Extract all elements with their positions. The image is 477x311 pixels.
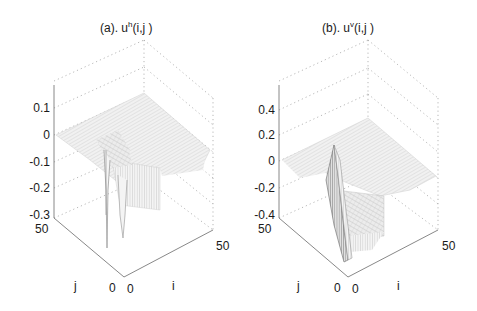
panel-a-ytick-0: 0 <box>109 281 116 295</box>
panel-b-xtick-50: 50 <box>442 239 456 253</box>
figure-canvas: (a). uh(i,j ) <box>0 0 477 311</box>
panel-b-ylabel: j <box>296 279 300 293</box>
panel-a: (a). uh(i,j ) <box>29 20 229 296</box>
svg-text:-0.4: -0.4 <box>254 208 275 222</box>
panel-b-title: (b). uv(i,j ) <box>322 20 374 35</box>
svg-text:0.1: 0.1 <box>33 101 50 115</box>
svg-text:0: 0 <box>43 128 50 142</box>
panel-b-zticks: 0.4 0.2 0 -0.2 -0.4 <box>254 103 275 222</box>
panel-b: (b). uv(i,j ) <box>254 20 455 296</box>
svg-text:0: 0 <box>268 154 275 168</box>
panel-a-xlabel: i <box>172 279 175 293</box>
panel-a-ytick-50: 50 <box>35 222 49 236</box>
svg-text:-0.2: -0.2 <box>29 181 50 195</box>
panel-b-ytick-0: 0 <box>334 281 341 295</box>
panel-a-ylabel: j <box>73 279 77 293</box>
panel-a-xtick-50: 50 <box>216 239 230 253</box>
svg-text:-0.1: -0.1 <box>29 155 50 169</box>
svg-text:-0.2: -0.2 <box>254 181 275 195</box>
panel-b-ytick-50: 50 <box>258 222 272 236</box>
svg-text:-0.3: -0.3 <box>29 208 50 222</box>
panel-b-xtick-0: 0 <box>352 282 359 296</box>
panel-a-xtick-0: 0 <box>127 282 134 296</box>
svg-text:0.2: 0.2 <box>258 128 275 142</box>
svg-text:0.4: 0.4 <box>258 103 275 117</box>
panel-a-zticks: 0.1 0 -0.1 -0.2 -0.3 <box>29 101 50 222</box>
panel-a-surface <box>56 93 210 248</box>
panel-b-xlabel: i <box>397 279 400 293</box>
panel-a-title: (a). uh(i,j ) <box>100 20 152 35</box>
